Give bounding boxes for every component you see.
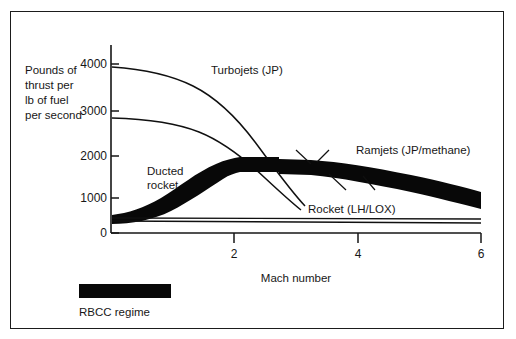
rocket-label: Rocket (LH/LOX) bbox=[308, 203, 396, 215]
turbojets-label: Turbojets (JP) bbox=[211, 64, 283, 76]
y-tick-label-2000: 2000 bbox=[80, 149, 107, 163]
x-tick-label-4: 4 bbox=[355, 247, 362, 261]
legend-label: RBCC regime bbox=[79, 306, 150, 318]
x-axis-label: Mach number bbox=[261, 272, 331, 284]
ramjets-label: Ramjets (JP/methane) bbox=[356, 144, 471, 156]
y-axis-label-line-2: thrust per bbox=[25, 79, 74, 91]
y-axis-label-line-4: per second bbox=[25, 109, 82, 121]
x-tick-label-6: 6 bbox=[478, 247, 485, 261]
y-axis-label-line-3: lb of fuel bbox=[25, 94, 68, 106]
rocket-line-lower bbox=[112, 221, 481, 223]
y-tick-label-3000: 3000 bbox=[80, 104, 107, 118]
x-tick-label-2: 2 bbox=[231, 247, 238, 261]
y-axis-label-line-1: Pounds of bbox=[25, 64, 78, 76]
leader-line-2 bbox=[317, 150, 329, 162]
y-tick-label-1000: 1000 bbox=[80, 191, 107, 205]
ducted-rocket-label-line-1: Ducted bbox=[147, 165, 183, 177]
y-tick-label-4000: 4000 bbox=[80, 57, 107, 71]
legend-swatch bbox=[79, 284, 171, 298]
thrust-vs-mach-chart: Pounds of thrust per lb of fuel per seco… bbox=[11, 12, 505, 330]
rocket-line-upper bbox=[112, 218, 481, 219]
figure-frame: Pounds of thrust per lb of fuel per seco… bbox=[10, 11, 504, 329]
ducted-rocket-label-line-2: rocket bbox=[147, 179, 179, 191]
y-tick-label-0: 0 bbox=[100, 226, 107, 240]
